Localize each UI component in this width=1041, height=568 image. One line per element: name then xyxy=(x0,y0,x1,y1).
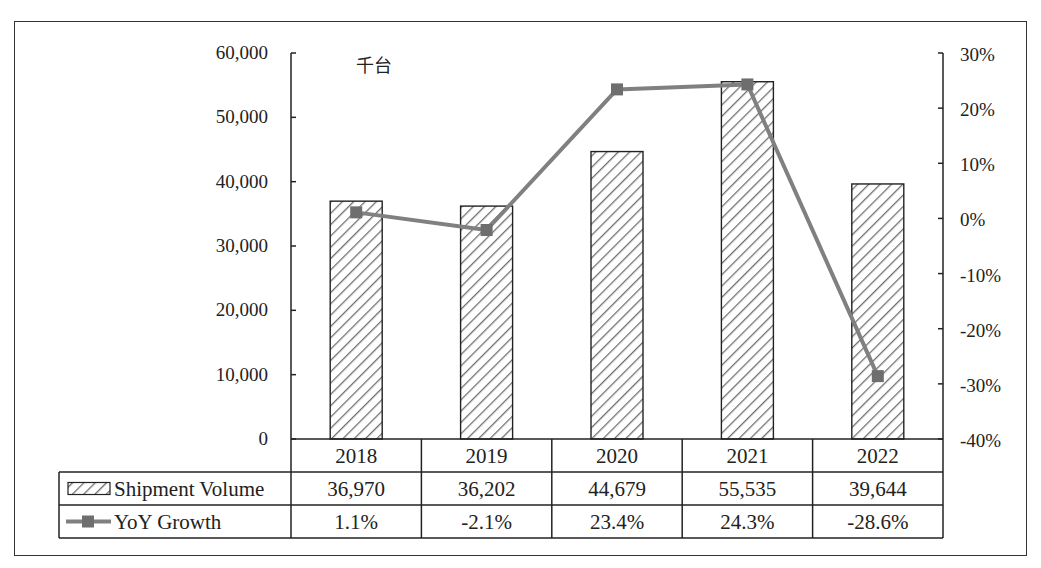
bar-2022 xyxy=(852,184,904,439)
right-axis-tick-label: -20% xyxy=(960,320,1001,341)
yoy-marker-2022 xyxy=(872,370,884,382)
category-label: 2021 xyxy=(726,444,768,468)
right-axis-tick-label: 0% xyxy=(960,209,986,230)
unit-label: 千台 xyxy=(356,55,392,76)
left-axis-tick-label: 50,000 xyxy=(216,106,268,127)
bar-2020 xyxy=(591,152,643,439)
bar-2019 xyxy=(461,206,513,439)
table-cell-value: 23.4% xyxy=(590,510,644,534)
table-cell-value: 36,202 xyxy=(458,477,516,501)
yoy-marker-2019 xyxy=(481,224,493,236)
combo-chart: 千台010,00020,00030,00040,00050,00060,000-… xyxy=(0,0,1041,568)
left-axis-tick-label: 20,000 xyxy=(216,299,268,320)
legend-hatch-swatch-icon xyxy=(68,483,110,495)
category-label: 2020 xyxy=(596,444,638,468)
bar-2018 xyxy=(330,201,382,439)
right-axis-tick-label: -30% xyxy=(960,375,1001,396)
category-label: 2019 xyxy=(466,444,508,468)
table-cell-value: 44,679 xyxy=(588,477,646,501)
yoy-marker-2020 xyxy=(611,83,623,95)
table-cell-value: 36,970 xyxy=(327,477,385,501)
right-axis-tick-label: 30% xyxy=(960,44,995,65)
yoy-marker-2018 xyxy=(350,206,362,218)
left-axis-tick-label: 30,000 xyxy=(216,235,268,256)
left-axis-tick-label: 40,000 xyxy=(216,171,268,192)
table-cell-value: -28.6% xyxy=(847,510,908,534)
right-axis-tick-label: -40% xyxy=(960,430,1001,451)
yoy-marker-2021 xyxy=(741,78,753,90)
right-axis-tick-label: 10% xyxy=(960,154,995,175)
table-cell-value: 1.1% xyxy=(334,510,378,534)
left-axis-tick-label: 60,000 xyxy=(216,42,268,63)
left-axis-tick-label: 10,000 xyxy=(216,364,268,385)
category-label: 2022 xyxy=(857,444,899,468)
table-cell-value: 24.3% xyxy=(720,510,774,534)
category-label: 2018 xyxy=(335,444,377,468)
bar-2021 xyxy=(721,82,773,439)
table-cell-value: 55,535 xyxy=(719,477,777,501)
table-cell-value: 39,644 xyxy=(849,477,907,501)
right-axis-tick-label: 20% xyxy=(960,99,995,120)
right-axis-tick-label: -10% xyxy=(960,265,1001,286)
legend-label: YoY Growth xyxy=(114,510,222,534)
left-axis-tick-label: 0 xyxy=(259,428,269,449)
legend-label: Shipment Volume xyxy=(114,477,264,501)
legend-marker-icon xyxy=(82,516,94,528)
table-cell-value: -2.1% xyxy=(461,510,512,534)
